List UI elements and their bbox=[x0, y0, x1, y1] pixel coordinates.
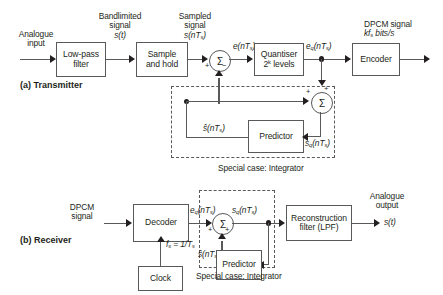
arrowhead-feedback-sum1 bbox=[215, 70, 223, 76]
wire-lpf-to-sh bbox=[106, 59, 131, 60]
wire-quantiser-to-encoder bbox=[304, 59, 348, 60]
wire-predictor-out-horizontal bbox=[186, 137, 248, 138]
arrowhead-recon-output bbox=[374, 219, 380, 227]
label-error-signal: e(nTs) bbox=[233, 42, 255, 52]
label-output-signal-st: s(t) bbox=[384, 218, 396, 227]
block-clock: Clock bbox=[138, 266, 183, 291]
sign-sum1-bottom: − bbox=[222, 62, 226, 70]
arrowhead-receiver-feedback bbox=[218, 233, 226, 239]
label-reconstructed-signal-transmitter: sq(nTs) bbox=[305, 139, 330, 149]
caption-special-case-receiver: Special case: Integrator bbox=[196, 272, 282, 281]
wire-sum-to-recon bbox=[232, 223, 282, 224]
arrowhead-quantiser-encoder bbox=[345, 55, 351, 63]
wire-dot-to-sum1-column bbox=[186, 101, 220, 102]
wire-sum2-down bbox=[320, 112, 321, 137]
label-reconstructed-signal-receiver: sq(nTs) bbox=[232, 206, 257, 216]
sign-sumr-left: + bbox=[208, 226, 212, 234]
summing-junction-transmitter: Σ bbox=[209, 50, 231, 72]
sign-sum2-top: + bbox=[324, 85, 328, 93]
label-clock-frequency: fs = 1/Ts bbox=[166, 240, 195, 250]
wire-input-to-decoder bbox=[104, 223, 128, 224]
wire-encoder-output bbox=[400, 59, 426, 60]
summing-junction-predictor-transmitter: Σ bbox=[311, 92, 333, 114]
block-lowpass-filter: Low-pass filter bbox=[56, 42, 106, 77]
arrowhead-sum1-quantiser bbox=[247, 55, 253, 63]
block-quantiser: Quantiser 2k levels bbox=[254, 43, 304, 76]
label-sampled-signal: Sampled signal s(nTs) bbox=[167, 12, 223, 40]
block-predictor-transmitter: Predictor bbox=[248, 120, 304, 153]
label-predicted-signal-transmitter: ŝ(nTs) bbox=[203, 124, 225, 134]
label-analogue-output: Analogue output bbox=[358, 192, 416, 211]
wire-receiver-tap-down bbox=[268, 223, 269, 265]
wire-predictor-out-vertical bbox=[186, 101, 187, 138]
summing-junction-receiver: Σ bbox=[212, 213, 234, 235]
sign-sum1-left: + bbox=[205, 62, 209, 70]
section-label-transmitter: (a) Transmitter bbox=[20, 80, 83, 90]
wire-tap-to-sum2 bbox=[321, 59, 322, 82]
label-dpcm-input: DPCM signal bbox=[58, 203, 106, 222]
block-reconstruction-filter: Reconstruction filter (LPF) bbox=[286, 205, 352, 241]
dpcm-block-diagram: (a) Transmitter Analogue input Low-pass … bbox=[0, 0, 443, 295]
arrowhead-feedback-sum2 bbox=[303, 97, 309, 105]
sign-sum2-left: + bbox=[306, 88, 310, 96]
wire-input-to-lpf bbox=[20, 59, 52, 60]
arrowhead-lpf-sh bbox=[129, 55, 135, 63]
wire-sum1-to-quantiser bbox=[229, 59, 249, 60]
section-label-receiver: (b) Receiver bbox=[20, 235, 72, 245]
arrowhead-sum-recon bbox=[279, 219, 285, 227]
arrowhead-encoder-output bbox=[424, 55, 430, 63]
arrowhead-input-decoder bbox=[126, 219, 132, 227]
wire-clock-to-decoder bbox=[160, 242, 161, 268]
arrowhead-clock-decoder bbox=[157, 236, 165, 242]
block-encoder: Encoder bbox=[352, 43, 400, 76]
wire-recon-output bbox=[352, 223, 376, 224]
label-bandlimited-signal: Bandlimited signal s(t) bbox=[90, 12, 150, 40]
label-quantised-error: eq(nTs) bbox=[306, 42, 331, 52]
label-dpcm-output: DPCM signal kfs bits/s bbox=[364, 20, 412, 39]
caption-special-case-transmitter: Special case: Integrator bbox=[218, 164, 304, 173]
block-sample-and-hold: Sample and hold bbox=[136, 42, 188, 77]
